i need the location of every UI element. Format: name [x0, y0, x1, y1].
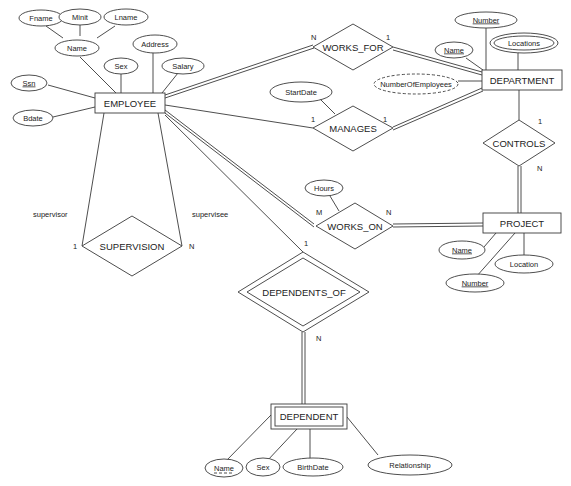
attribute-ssn: Ssn [11, 75, 47, 91]
svg-text:WORKS_FOR: WORKS_FOR [322, 42, 383, 53]
entity-employee: EMPLOYEE [95, 93, 165, 113]
card-controls-dept: 1 [538, 117, 542, 126]
svg-text:EMPLOYEE: EMPLOYEE [104, 98, 156, 109]
card-manages-dept: 1 [383, 115, 387, 124]
attribute-department-name: Name [435, 42, 473, 58]
attribute-dependent-sex: Sex [246, 458, 280, 476]
attribute-department-number: Number [455, 12, 517, 28]
card-works-on-proj: N [386, 208, 391, 217]
relationship-supervision: SUPERVISION [82, 216, 182, 276]
svg-text:DEPARTMENT: DEPARTMENT [490, 75, 555, 86]
svg-text:Name: Name [67, 44, 87, 53]
card-dependents-of-dep: N [316, 334, 321, 343]
svg-text:NumberOfEmployees: NumberOfEmployees [380, 80, 452, 89]
svg-text:Salary: Salary [172, 62, 194, 71]
attribute-employee-sex: Sex [104, 58, 138, 74]
svg-text:DEPENDENTS_OF: DEPENDENTS_OF [262, 287, 346, 298]
role-supervisor: supervisor [33, 210, 68, 219]
attribute-relationship: Relationship [368, 455, 452, 475]
svg-text:Number: Number [462, 279, 489, 288]
attribute-project-number: Number [446, 274, 504, 292]
svg-text:Number: Number [473, 16, 500, 25]
card-supervision-supervisee: N [189, 242, 194, 251]
card-dependents-of-emp: 1 [304, 239, 308, 248]
card-supervision-supervisor: 1 [73, 242, 77, 251]
svg-text:Hours: Hours [314, 184, 334, 193]
attribute-location: Location [495, 255, 553, 273]
svg-text:DEPENDENT: DEPENDENT [280, 411, 339, 422]
svg-text:Relationship: Relationship [389, 461, 430, 470]
svg-text:BirthDate: BirthDate [297, 463, 328, 472]
attribute-bdate: Bdate [13, 110, 53, 126]
entity-department: DEPARTMENT [482, 70, 562, 90]
svg-text:Name: Name [452, 246, 472, 255]
attribute-hours: Hours [305, 180, 343, 196]
role-supervisee: supervisee [192, 210, 228, 219]
svg-text:Name: Name [214, 464, 234, 473]
svg-text:Sex: Sex [257, 463, 270, 472]
attribute-start-date: StartDate [270, 82, 332, 102]
attribute-dependent-name: Name [205, 459, 243, 477]
svg-text:Locations: Locations [508, 39, 540, 48]
svg-text:StartDate: StartDate [285, 88, 317, 97]
svg-text:Fname: Fname [29, 14, 52, 23]
svg-text:Address: Address [141, 40, 169, 49]
svg-text:Location: Location [510, 260, 538, 269]
er-diagram: Fname Minit Lname Name Ssn Bdate Sex Add… [0, 0, 571, 486]
svg-text:Ssn: Ssn [23, 79, 36, 88]
relationship-controls: CONTROLS [483, 120, 555, 166]
svg-text:Bdate: Bdate [23, 114, 43, 123]
entity-dependent: DEPENDENT [271, 404, 347, 429]
attribute-project-name: Name [439, 241, 485, 259]
attribute-minit: Minit [59, 9, 101, 25]
svg-text:PROJECT: PROJECT [500, 218, 545, 229]
relationship-works-on: WORKS_ON [316, 203, 393, 249]
card-works-for-dept: 1 [386, 33, 390, 42]
svg-text:WORKS_ON: WORKS_ON [327, 221, 383, 232]
svg-text:Name: Name [444, 46, 464, 55]
attribute-employee-name: Name [55, 40, 99, 56]
card-controls-proj: N [537, 164, 542, 173]
attribute-birth-date: BirthDate [283, 458, 343, 476]
svg-text:MANAGES: MANAGES [329, 123, 377, 134]
svg-text:SUPERVISION: SUPERVISION [100, 241, 165, 252]
attribute-locations: Locations [490, 33, 558, 53]
entity-project: PROJECT [483, 213, 561, 233]
relationship-dependents-of: DEPENDENTS_OF [238, 252, 369, 332]
attribute-salary: Salary [162, 58, 204, 74]
svg-text:Minit: Minit [72, 13, 89, 22]
relationship-works-for: WORKS_FOR [313, 24, 393, 70]
attribute-lname: Lname [104, 9, 148, 25]
attribute-address: Address [133, 35, 177, 53]
svg-text:Sex: Sex [115, 62, 128, 71]
attribute-number-of-employees: NumberOfEmployees [374, 74, 458, 94]
svg-text:Lname: Lname [115, 13, 138, 22]
relationship-manages: MANAGES [313, 106, 393, 151]
card-manages-emp: 1 [311, 115, 315, 124]
svg-text:CONTROLS: CONTROLS [493, 138, 546, 149]
card-works-for-emp: N [311, 33, 316, 42]
card-works-on-emp: M [316, 208, 322, 217]
attribute-fname: Fname [19, 10, 63, 26]
